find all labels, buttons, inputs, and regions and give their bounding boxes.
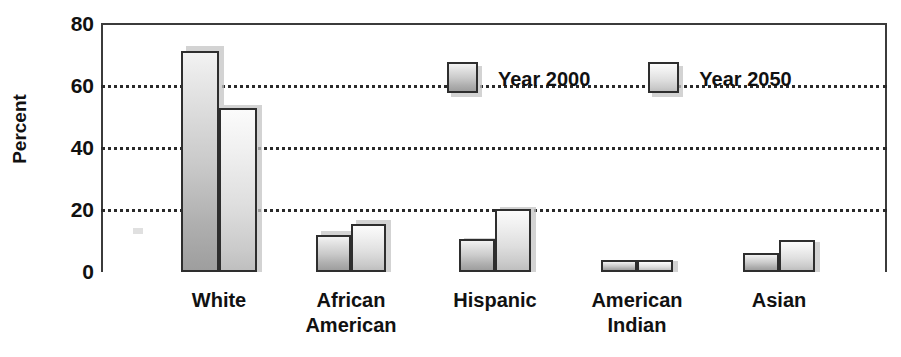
- bar-hispanic-year-2000: [459, 239, 495, 272]
- bar-american-indian-year-2000: [601, 260, 637, 272]
- legend-swatch-holder-2050: [648, 62, 683, 97]
- bar-african-american-year-2000: [316, 235, 351, 272]
- bar-chart: Percent 80 60 40 20 0: [0, 0, 901, 357]
- category-label-american-indian-line1: American: [591, 289, 682, 311]
- category-label-asian-line1: Asian: [752, 289, 806, 311]
- bar-white-year-2000: [181, 51, 219, 272]
- y-tick-label-80: 80: [10, 12, 94, 36]
- y-tick-label-20: 20: [10, 198, 94, 222]
- y-tick-label-0: 0: [10, 260, 94, 284]
- legend-label-year-2050: Year 2050: [699, 68, 791, 91]
- category-label-african-american-line2: American: [281, 313, 421, 338]
- category-label-hispanic: Hispanic: [425, 288, 565, 313]
- legend-swatch-holder-2000: [447, 62, 482, 97]
- bar-african-american-year-2050: [351, 224, 386, 272]
- legend-swatch-year-2000: [447, 62, 478, 93]
- y-tick-label-60: 60: [10, 74, 94, 98]
- category-label-african-american-line1: African: [317, 289, 386, 311]
- category-label-american-indian: American Indian: [567, 288, 707, 338]
- bar-hispanic-year-2050: [495, 209, 531, 272]
- chart-legend: Year 2000 Year 2050: [447, 62, 792, 97]
- legend-label-year-2000: Year 2000: [498, 68, 590, 91]
- scan-artifact: [133, 228, 143, 234]
- category-label-hispanic-line1: Hispanic: [453, 289, 536, 311]
- legend-item-year-2050: Year 2050: [648, 62, 791, 97]
- legend-swatch-year-2050: [648, 62, 679, 93]
- bar-white-year-2050: [219, 108, 257, 272]
- y-tick-label-40: 40: [10, 136, 94, 160]
- legend-item-year-2000: Year 2000: [447, 62, 590, 97]
- y-axis-tick-labels: 80 60 40 20 0: [0, 0, 94, 357]
- category-label-asian: Asian: [709, 288, 849, 313]
- category-label-white-line1: White: [192, 289, 246, 311]
- bar-asian-year-2050: [779, 240, 815, 272]
- bar-asian-year-2000: [743, 253, 779, 272]
- category-label-american-indian-line2: Indian: [567, 313, 707, 338]
- category-label-african-american: African American: [281, 288, 421, 338]
- category-label-white: White: [149, 288, 289, 313]
- bar-american-indian-year-2050: [637, 260, 673, 272]
